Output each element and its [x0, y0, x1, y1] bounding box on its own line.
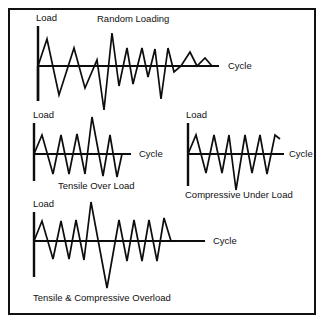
both-caption: Tensile & Compressive Overload: [33, 293, 171, 303]
compressive-caption: Compressive Under Load: [185, 190, 293, 200]
tensile-caption: Tensile Over Load: [58, 181, 135, 191]
random-loading-title: Random Loading: [97, 14, 169, 24]
both-cycle-label: Cycle: [213, 236, 237, 246]
compressive-load-label: Load: [186, 110, 207, 120]
figure-border: [8, 8, 316, 315]
compressive-cycle-label: Cycle: [289, 149, 313, 159]
random-cycle-label: Cycle: [228, 61, 252, 71]
figure-root: Load Random Loading Cycle Load Cycle Ten…: [0, 0, 326, 325]
both-load-label: Load: [33, 199, 54, 209]
random-load-label: Load: [36, 13, 57, 23]
tensile-cycle-label: Cycle: [139, 149, 163, 159]
tensile-load-label: Load: [33, 110, 54, 120]
